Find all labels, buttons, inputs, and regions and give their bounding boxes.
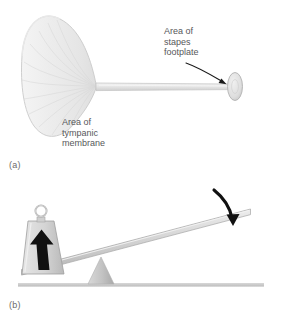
figure-container: Area of stapes footplate Area of tympani… — [0, 0, 282, 323]
tympanic-label-line-2: tympanic — [62, 128, 105, 139]
stapes-footplate-disc — [228, 73, 243, 101]
stapes-label-line-1: Area of — [164, 26, 199, 37]
panel-b — [0, 178, 282, 323]
panel-a-caption: (a) — [9, 160, 21, 170]
tympanic-label-line-3: membrane — [62, 138, 105, 149]
stapes-label-line-2: stapes — [164, 37, 199, 48]
panel-a: Area of stapes footplate Area of tympani… — [0, 0, 282, 178]
panel-b-illustration — [0, 178, 282, 323]
tympanic-label-line-1: Area of — [62, 117, 105, 128]
tympanic-membrane-label: Area of tympanic membrane — [62, 117, 105, 149]
connecting-rod — [96, 83, 230, 91]
stapes-pointer-arrow-icon — [186, 63, 227, 84]
fulcrum-triangle — [88, 257, 114, 284]
stapes-label-line-3: footplate — [164, 47, 199, 58]
panel-b-caption: (b) — [9, 300, 21, 310]
panel-a-illustration — [0, 0, 282, 178]
ground-line — [18, 283, 264, 287]
weight-ring-handle — [35, 205, 46, 222]
stapes-footplate-label: Area of stapes footplate — [164, 26, 199, 58]
